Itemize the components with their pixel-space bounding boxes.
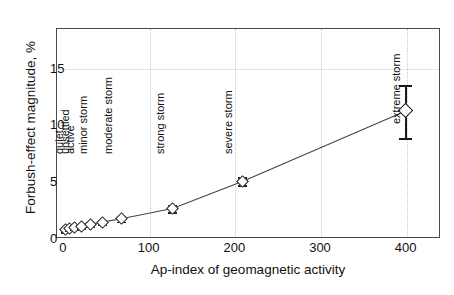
category-label: strong storm (154, 93, 166, 154)
y-tick-label: 0 (50, 231, 57, 246)
y-tick-label: 5 (50, 174, 57, 189)
category-label: moderate storm (102, 77, 114, 154)
gridline-vertical (150, 29, 152, 237)
gridline-horizontal (57, 69, 439, 71)
x-tick-label: 300 (309, 240, 331, 255)
error-bar-cap (399, 138, 412, 140)
gridline-vertical (407, 29, 409, 237)
x-tick-label: 100 (138, 240, 160, 255)
category-label: extreme storm (390, 54, 402, 124)
y-tick-label: 10 (50, 117, 64, 132)
y-tick-label: 15 (50, 60, 64, 75)
x-tick-label: 200 (223, 240, 245, 255)
category-label: active (64, 125, 76, 154)
x-tick-label: 400 (395, 240, 417, 255)
gridline-vertical (321, 29, 323, 237)
x-tick-label: 0 (59, 240, 66, 255)
category-label: minor storm (77, 96, 89, 154)
y-axis-title: Forbush-effect magnitude, % (23, 8, 38, 248)
forbush-effect-chart: quietunsettledactiveminor stormmoderate … (0, 0, 454, 295)
category-label: severe storm (222, 90, 234, 154)
gridline-vertical (235, 29, 237, 237)
x-axis-title: Ap-index of geomagnetic activity (56, 262, 440, 277)
